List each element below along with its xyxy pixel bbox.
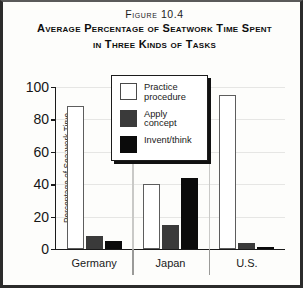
x-axis-label-japan: Japan (156, 257, 186, 269)
figure-title-block: Figure 10.4 Average Percentage of Seatwo… (3, 8, 303, 51)
bar-germany-invent (105, 241, 122, 249)
x-axis-label-us: U.S. (236, 257, 257, 269)
legend-item-practice: Practiceprocedure (120, 83, 201, 103)
legend-label-apply: Applyconcept (144, 110, 177, 130)
bar-germany-practice (67, 106, 84, 249)
gridline (56, 217, 285, 218)
y-tick-mark (51, 119, 56, 120)
legend-label-invent: Invent/think (144, 136, 192, 146)
bar-us-apply (238, 243, 255, 249)
y-tick-label: 100 (26, 79, 49, 95)
figure-title-line-2: in Three Kinds of Tasks (3, 38, 303, 52)
figure-frame: Figure 10.4 Average Percentage of Seatwo… (0, 0, 303, 288)
bar-japan-practice (143, 184, 160, 249)
x-group-tick (132, 249, 133, 275)
figure-title-line-1: Average Percentage of Seatwork Time Spen… (3, 22, 303, 36)
y-tick-label: 60 (33, 144, 49, 160)
y-tick-label: 0 (41, 241, 49, 257)
y-tick-mark (51, 249, 56, 250)
y-tick-mark (51, 152, 56, 153)
legend-swatch-apply (120, 110, 137, 127)
bar-us-invent (257, 247, 274, 249)
y-tick-mark (51, 184, 56, 185)
y-tick-mark (51, 217, 56, 218)
group-separator (209, 87, 210, 249)
figure-number: Figure 10.4 (3, 8, 303, 20)
x-axis-label-germany: Germany (72, 257, 117, 269)
legend-item-invent: Invent/think (120, 136, 201, 153)
legend-swatch-invent (120, 136, 137, 153)
bar-japan-apply (162, 225, 179, 249)
chart-legend: PracticeprocedureApplyconceptInvent/thin… (111, 75, 208, 161)
legend-label-practice: Practiceprocedure (144, 83, 186, 103)
gridline (56, 184, 285, 185)
y-tick-label: 40 (33, 176, 49, 192)
legend-swatch-practice (120, 83, 137, 100)
y-tick-label: 20 (33, 209, 49, 225)
y-tick-label: 80 (33, 111, 49, 127)
x-group-tick (209, 249, 210, 275)
legend-item-apply: Applyconcept (120, 110, 201, 130)
bar-germany-apply (86, 236, 103, 249)
y-tick-mark (51, 87, 56, 88)
bar-us-practice (219, 95, 236, 249)
bar-japan-invent (181, 178, 198, 249)
